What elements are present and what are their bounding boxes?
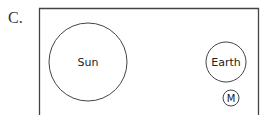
earth-label: Earth [211, 56, 241, 69]
body-earth: Earth [206, 42, 246, 82]
body-m: M [223, 90, 239, 106]
body-sun: Sun [49, 23, 127, 101]
diagram: SunEarthM [0, 0, 260, 115]
sun-label: Sun [78, 56, 99, 69]
m-label: M [227, 93, 236, 104]
